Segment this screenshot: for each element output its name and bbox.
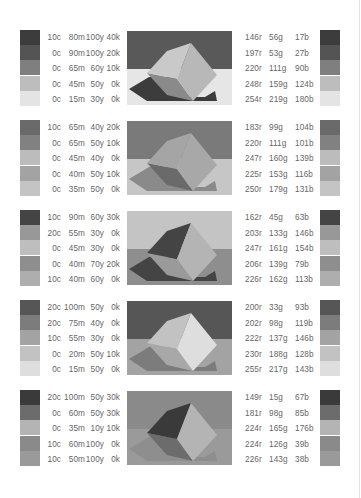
rgb-swatch [320, 345, 340, 361]
rgb-b-value: 116b [295, 167, 317, 183]
rgb-b-value: 101b [295, 136, 317, 152]
rgb-swatch [320, 165, 340, 181]
cmyk-k-value: 20k [104, 46, 120, 62]
cmyk-y-value: 30y [85, 92, 104, 108]
rgb-b-value: 128b [295, 347, 317, 363]
cmyk-swatch [20, 315, 40, 330]
rgb-row: 230r188g128b [245, 347, 317, 363]
rgb-row: 181r98g85b [245, 406, 317, 422]
cmyk-swatch-column [20, 210, 40, 288]
cmyk-y-value: 30y [85, 226, 104, 242]
rgb-row: 203r133g146b [245, 226, 317, 242]
rgb-swatch [320, 240, 340, 255]
rgb-row: 183r99g104b [245, 120, 317, 136]
rgb-g-value: 45g [269, 210, 295, 226]
rgb-b-value: 119b [295, 316, 317, 332]
cmyk-row: 10c90m60y30k [44, 210, 120, 226]
cmyk-k-value: 10k [104, 61, 120, 77]
rgb-r-value: 247r [245, 151, 269, 167]
cmyk-swatch [20, 390, 40, 405]
rgb-swatch [320, 75, 340, 91]
palette-block-5: 20c100m50y30k0c60m50y30k0c35m10y10k10c60… [0, 388, 361, 470]
cmyk-m-value: 90m [61, 46, 85, 62]
palette-block-2: 10c65m40y20k0c65m50y10k0c45m40y0k0c40m50… [0, 118, 361, 200]
cmyk-c-value: 20c [44, 390, 61, 406]
cmyk-row: 0c15m30y0k [44, 92, 120, 108]
rgb-swatch [320, 451, 340, 466]
rgb-row: 226r143g38b [245, 452, 317, 468]
rgb-g-value: 143g [269, 452, 295, 468]
rgb-swatch [320, 30, 340, 45]
cmyk-swatch [20, 225, 40, 240]
cmyk-c-value: 10c [44, 30, 61, 46]
rgb-r-value: 222r [245, 331, 269, 347]
rgb-g-value: 98g [269, 406, 295, 422]
rgb-r-value: 203r [245, 226, 269, 242]
cmyk-y-value: 50y [85, 167, 104, 183]
cmyk-m-value: 55m [61, 331, 85, 347]
cmyk-k-value: 0k [104, 92, 120, 108]
cmyk-c-value: 0c [44, 347, 61, 363]
rgb-b-value: 39b [295, 437, 317, 453]
cmyk-c-value: 0c [44, 136, 61, 152]
cmyk-c-value: 0c [44, 92, 61, 108]
rgb-values: 146r56g17b197r53g27b220r111g90b248r159g1… [245, 30, 317, 108]
cmyk-y-value: 50y [85, 182, 104, 198]
rgb-swatch [320, 330, 340, 345]
cmyk-k-value: 10k [104, 167, 120, 183]
cmyk-swatch [20, 75, 40, 91]
cmyk-k-value: 20k [104, 120, 120, 136]
cmyk-values: 10c65m40y20k0c65m50y10k0c45m40y0k0c40m50… [44, 120, 120, 198]
cmyk-y-value: 100y [85, 46, 104, 62]
cmyk-swatch [20, 255, 40, 271]
rgb-values: 183r99g104b220r111g101b247r160g139b225r1… [245, 120, 317, 198]
rgb-g-value: 188g [269, 347, 295, 363]
rgb-row: 225r153g116b [245, 167, 317, 183]
cmyk-swatch [20, 300, 40, 315]
cmyk-k-value: 0k [104, 77, 120, 93]
rgb-g-value: 33g [269, 300, 295, 316]
rgb-b-value: 17b [295, 30, 317, 46]
cmyk-c-value: 0c [44, 421, 61, 437]
rgb-swatch [320, 210, 340, 225]
cmyk-m-value: 50m [61, 452, 85, 468]
rgb-g-value: 161g [269, 241, 295, 257]
rgb-r-value: 149r [245, 390, 269, 406]
cmyk-y-value: 50y [85, 362, 104, 378]
rgb-g-value: 217g [269, 362, 295, 378]
cmyk-y-value: 40y [85, 120, 104, 136]
cmyk-m-value: 40m [61, 272, 85, 288]
cmyk-row: 0c65m60y10k [44, 61, 120, 77]
cmyk-c-value: 0c [44, 406, 61, 422]
cmyk-k-value: 0k [104, 226, 120, 242]
rgb-r-value: 162r [245, 210, 269, 226]
rgb-b-value: 90b [295, 61, 317, 77]
cmyk-c-value: 0c [44, 46, 61, 62]
rgb-row: 224r126g39b [245, 437, 317, 453]
palette-block-1: 10c80m100y40k0c90m100y20k0c65m60y10k0c45… [0, 28, 361, 110]
cmyk-m-value: 45m [61, 241, 85, 257]
rgb-swatch [320, 405, 340, 420]
cmyk-m-value: 40m [61, 167, 85, 183]
cmyk-row: 0c35m10y10k [44, 421, 120, 437]
rgb-row: 162r45g63b [245, 210, 317, 226]
cmyk-row: 20c100m50y0k [44, 300, 120, 316]
cmyk-row: 0c90m100y20k [44, 46, 120, 62]
cmyk-swatch [20, 420, 40, 435]
rgb-g-value: 179g [269, 182, 295, 198]
rgb-b-value: 143b [295, 362, 317, 378]
cmyk-swatch [20, 150, 40, 165]
cube-illustration [127, 301, 232, 375]
cmyk-row: 10c65m40y20k [44, 120, 120, 136]
rgb-g-value: 111g [269, 61, 295, 77]
cmyk-swatch [20, 60, 40, 75]
cmyk-swatch [20, 120, 40, 135]
rgb-swatch [320, 181, 340, 196]
cmyk-c-value: 0c [44, 61, 61, 77]
cmyk-row: 0c20m50y10k [44, 347, 120, 363]
rgb-b-value: 131b [295, 182, 317, 198]
cmyk-k-value: 0k [104, 331, 120, 347]
cmyk-y-value: 30y [85, 331, 104, 347]
cmyk-m-value: 65m [61, 120, 85, 136]
cmyk-c-value: 0c [44, 77, 61, 93]
